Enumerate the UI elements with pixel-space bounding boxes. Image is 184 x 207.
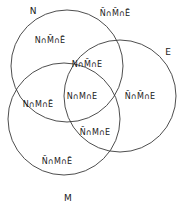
venn-diagram-figure: N E M N∩M̄∩Ē N̄∩M̄∩Ē N∩M̄∩E N∩M∩E N∩M∩Ē …	[0, 0, 184, 207]
region-label-m-e: N̄∩M∩E	[80, 128, 111, 137]
region-label-n-only: N∩M̄∩Ē	[35, 36, 66, 45]
set-label-n: N	[30, 6, 37, 16]
region-label-m-only: N̄∩M∩Ē	[42, 157, 73, 166]
region-label-outside-all: N̄∩M̄∩Ē	[100, 9, 131, 18]
region-label-n-m-e: N∩M∩E	[67, 92, 98, 101]
region-label-n-m: N∩M∩Ē	[23, 100, 54, 109]
region-label-e-only: N̄∩M̄∩E	[125, 92, 156, 101]
region-label-n-e: N∩M̄∩E	[72, 60, 103, 69]
set-label-m: M	[64, 193, 72, 203]
set-label-e: E	[165, 47, 171, 57]
